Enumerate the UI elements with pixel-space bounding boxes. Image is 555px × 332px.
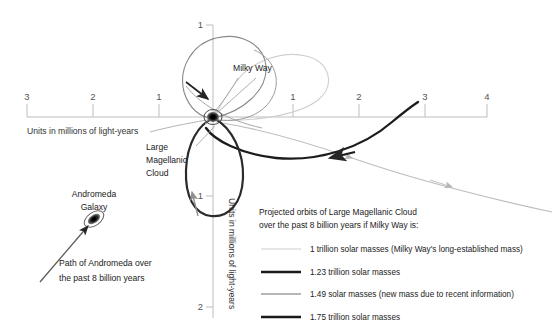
legend-entry-3-label: 1.49 solar masses (new mass due to recen… bbox=[310, 290, 514, 299]
lmc-label-line2: Magellanic bbox=[146, 155, 188, 165]
milky-way-label: Milky Way bbox=[233, 63, 273, 73]
legend-title-line2: over the past 8 billion years if Milky W… bbox=[259, 220, 418, 230]
orbit-diagram: 3 2 1 1 2 3 4 Units in millions of light… bbox=[0, 0, 555, 332]
x-tick-right-3: 3 bbox=[422, 91, 427, 102]
andromeda-path-line1: Path of Andromeda over bbox=[59, 258, 152, 268]
y-axis-caption: Units in millions of light-years bbox=[227, 198, 237, 309]
andromeda-path-line2: the past 8 billion years bbox=[59, 273, 145, 283]
x-tick-left-3: 3 bbox=[24, 91, 29, 102]
lmc-label-line1: Large bbox=[146, 142, 168, 152]
x-tick-right-1: 1 bbox=[290, 91, 295, 102]
legend-entry-1-label: 1 trillion solar masses (Milky Way's lon… bbox=[310, 245, 523, 254]
legend-entry-4-label: 1.75 trillion solar masses bbox=[310, 313, 400, 322]
lmc-label-line3: Cloud bbox=[146, 168, 169, 178]
x-tick-left-2: 2 bbox=[90, 91, 95, 102]
legend-entry-2-label: 1.23 trillion solar masses bbox=[310, 268, 400, 277]
andromeda-label-line1: Andromeda bbox=[72, 189, 117, 199]
x-tick-right-2: 2 bbox=[356, 91, 361, 102]
x-tick-left-1: 1 bbox=[156, 91, 161, 102]
y-tick-bottom-2: 2 bbox=[198, 301, 203, 312]
x-tick-right-4: 4 bbox=[484, 91, 489, 102]
legend-title-line1: Projected orbits of Large Magellanic Clo… bbox=[259, 207, 417, 217]
x-axis-caption: Units in millions of light-years bbox=[27, 126, 138, 136]
y-tick-top-1: 1 bbox=[198, 19, 203, 30]
andromeda-label-line2: Galaxy bbox=[81, 202, 108, 212]
y-tick-bottom-1: 1 bbox=[198, 190, 203, 201]
